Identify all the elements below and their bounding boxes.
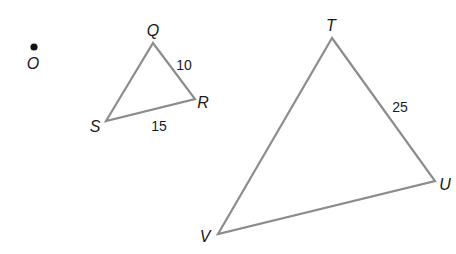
dilation-diagram: O Q R S 10 15 T U V 25 [0,0,456,254]
side-length-QR: 10 [176,57,192,73]
side-length-TU: 25 [392,99,408,115]
label-O: O [27,55,39,72]
center-point-O [30,43,37,50]
label-S: S [90,118,101,135]
label-V: V [200,228,212,245]
label-R: R [197,94,209,111]
label-U: U [439,176,451,193]
triangle-TUV [218,38,435,234]
triangle-QRS [106,43,195,121]
label-T: T [326,17,337,34]
side-length-SR: 15 [151,118,167,134]
label-Q: Q [147,22,159,39]
